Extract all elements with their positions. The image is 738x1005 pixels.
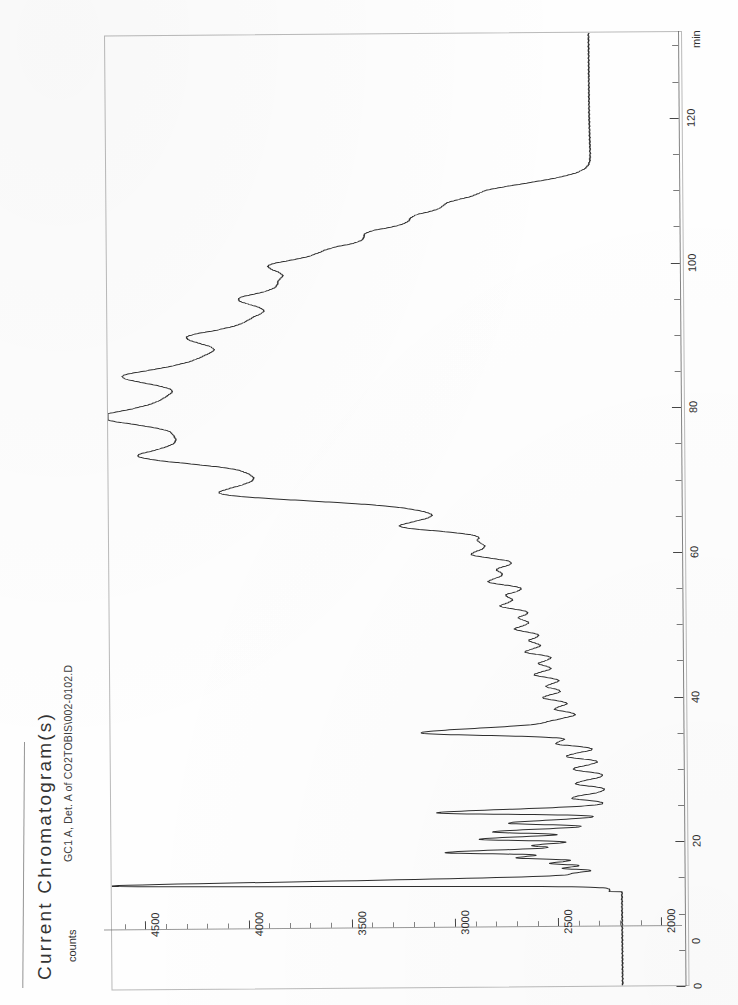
x-axis-minor-tick [679,914,685,915]
y-axis-minor-tick [228,924,229,929]
plot-area [105,32,688,989]
x-axis-tick-label: 80 [687,401,699,413]
x-axis-minor-tick [679,950,685,951]
x-axis-minor-tick [678,769,684,770]
x-axis-tick-label: 120 [685,109,697,127]
x-axis-minor-tick [676,480,682,481]
x-axis-minor-tick [678,805,684,806]
x-axis-minor-tick [674,335,680,336]
scanned-page: Current Chromatogram(s) GC1 A, Det. A of… [0,0,738,1005]
y-axis-minor-tick [537,921,538,926]
report-subtitle: GC1 A, Det. A of CO2TOBIS\002-0102.D [62,665,74,862]
y-axis-major-tick [455,919,456,927]
y-axis-tick-label: 3000 [459,910,471,935]
x-axis-tick-label: 40 [689,690,701,702]
y-axis-major-tick [145,921,146,929]
x-axis-minor-tick [677,660,683,661]
y-axis-tick-label: 4000 [252,912,264,937]
y-axis-minor-tick [393,922,394,927]
y-axis-minor-tick [434,922,435,927]
plot-frame [104,31,689,991]
x-axis-minor-tick [674,226,680,227]
y-axis-minor-tick [620,920,621,925]
y-axis-tick-label: 2000 [665,909,677,934]
y-axis-major-tick [352,920,353,928]
x-axis-tick-label: 100 [686,253,698,271]
x-axis-minor-tick [676,516,682,517]
y-axis-minor-tick [269,923,270,928]
x-axis-minor-tick [676,588,682,589]
x-axis-minor-tick [675,371,681,372]
x-axis-major-tick [670,118,679,119]
y-axis-minor-tick [310,923,311,928]
chromatogram-report: Current Chromatogram(s) GC1 A, Det. A of… [0,0,738,1005]
title-divider [22,742,25,988]
x-axis-minor-tick [677,624,683,625]
x-axis-tick-label: 0 [691,983,703,989]
x-axis-major-tick [674,697,683,698]
x-axis-minor-tick [672,45,678,46]
y-axis-minor-tick [476,922,477,927]
x-axis-minor-tick [672,82,678,83]
x-axis-minor-tick [674,299,680,300]
y-axis-minor-tick [207,924,208,929]
x-axis-minor-tick [673,190,679,191]
y-axis-minor-tick [125,924,126,929]
y-axis-unit-label: counts [66,930,78,962]
y-axis-tick-label: 4500 [149,913,161,938]
y-axis-minor-tick [372,922,373,927]
y-axis-minor-tick [517,921,518,926]
y-axis-minor-tick [331,923,332,928]
x-axis-tick-label: 60 [688,546,700,558]
x-axis-minor-tick [675,443,681,444]
x-axis-major-tick [673,552,682,553]
page-title: Current Chromatogram(s) [34,712,56,980]
y-axis-minor-tick [187,924,188,929]
y-axis-major-tick [248,920,249,928]
y-axis-minor-tick [599,921,600,926]
chromatogram-trace [105,32,688,989]
x-axis-minor-tick [678,733,684,734]
x-axis-minor-tick [673,154,679,155]
x-axis-major-tick [671,263,680,264]
y-axis-minor-tick [641,920,642,925]
x-axis-major-tick [677,986,686,987]
x-axis-major-tick [672,407,681,408]
y-axis-tick-label: 3500 [356,911,368,936]
x-axis-tick-label: 20 [690,835,702,847]
y-axis-major-tick [661,917,662,925]
y-axis-minor-tick [579,921,580,926]
y-axis-minor-tick [166,924,167,929]
y-axis-minor-tick [496,921,497,926]
x-axis-unit-label: min [690,30,702,48]
x-axis-origin-label: 0 [690,938,702,944]
y-axis-tick-label: 2500 [562,909,574,934]
y-axis-minor-tick [414,922,415,927]
y-axis-major-tick [558,918,559,926]
x-axis-major-tick [675,841,684,842]
y-axis-minor-tick [290,923,291,928]
x-axis-minor-tick [679,877,685,878]
